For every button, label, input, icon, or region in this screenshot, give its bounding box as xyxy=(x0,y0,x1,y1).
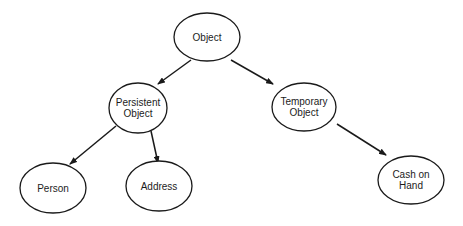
class-hierarchy-diagram: ObjectPersistentObjectTemporaryObjectPer… xyxy=(0,0,463,226)
arrow-icon xyxy=(337,124,386,155)
node-label: Object xyxy=(193,32,222,43)
node-label: Address xyxy=(141,181,178,192)
edge-temporary-object-to-cash-on-hand xyxy=(337,124,386,155)
edge-object-to-temporary-object xyxy=(231,60,273,84)
node-temporary-object: TemporaryObject xyxy=(272,83,336,131)
node-address: Address xyxy=(126,161,192,211)
node-label: Object xyxy=(290,107,319,118)
nodes-layer: ObjectPersistentObjectTemporaryObjectPer… xyxy=(20,13,444,213)
node-label: Temporary xyxy=(280,96,327,107)
edge-persistent-object-to-address xyxy=(151,131,158,163)
arrow-icon xyxy=(231,60,273,84)
edge-persistent-object-to-person xyxy=(70,126,116,164)
node-label: Persistent xyxy=(116,97,161,108)
node-label: Cash on xyxy=(392,169,429,180)
arrow-icon xyxy=(151,131,158,163)
node-label: Object xyxy=(124,108,153,119)
node-cash-on-hand: Cash onHand xyxy=(378,156,444,204)
node-label: Person xyxy=(37,183,69,194)
node-person: Person xyxy=(20,163,86,213)
node-persistent-object: PersistentObject xyxy=(109,83,167,133)
arrow-icon xyxy=(70,126,116,164)
edge-object-to-persistent-object xyxy=(158,60,191,84)
node-label: Hand xyxy=(399,180,423,191)
node-object: Object xyxy=(174,13,240,61)
arrow-icon xyxy=(158,60,191,84)
